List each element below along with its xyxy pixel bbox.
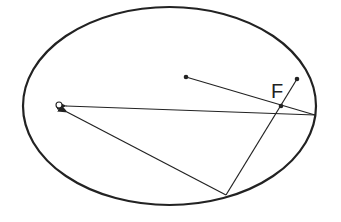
segment-center-to-right-vertex (186, 77, 315, 115)
center-dot (184, 75, 189, 80)
arrow-bottom-to-origin (67, 112, 226, 195)
focus-dot (279, 104, 284, 109)
origin-circle (56, 102, 62, 108)
ellipse-diagram: F (0, 0, 341, 222)
upper-dot (295, 77, 300, 82)
focus-label: F (271, 80, 283, 102)
segment-upper-dot-to-bottom (226, 79, 297, 195)
